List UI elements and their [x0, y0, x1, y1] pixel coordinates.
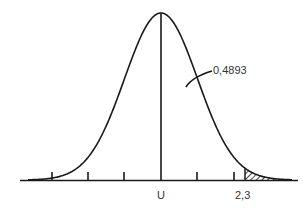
axis-ticks	[52, 172, 234, 180]
shade-start-axis-label: 2,3	[235, 189, 250, 201]
bell-curve	[28, 13, 292, 180]
annotation-label: 0,4893	[213, 64, 247, 76]
normal-curve-chart	[0, 0, 303, 217]
center-axis-label: U	[157, 189, 165, 201]
